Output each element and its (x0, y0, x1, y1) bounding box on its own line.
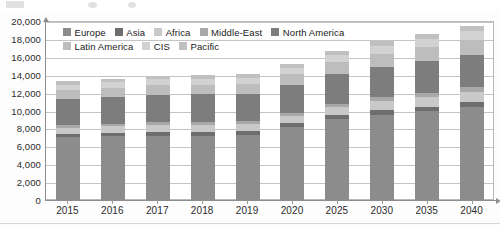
y-axis-labels: 20,00018,00016,00014,00012,00010,0008,00… (0, 0, 41, 227)
bar-segment (460, 55, 484, 87)
bar-segment (236, 94, 260, 121)
legend-item-pacific[interactable]: Pacific (179, 40, 219, 53)
bar-segment (56, 90, 80, 99)
y-axis-tick-label: 16,000 (0, 51, 41, 62)
bar-segment (56, 137, 80, 200)
page-rule (0, 223, 500, 224)
stacked-bar[interactable] (236, 74, 260, 200)
bar-segment (191, 94, 215, 121)
bar-segment (325, 62, 349, 74)
bar-segment (56, 99, 80, 125)
x-axis-tick-label: 2020 (270, 205, 315, 223)
scan-artifact-strip (0, 0, 500, 11)
legend-label: Asia (126, 26, 145, 39)
legend-row: EuropeAsiaAfricaMiddle-EastNorth America (63, 25, 443, 39)
x-axis-tick (45, 200, 90, 204)
legend-label: Africa (166, 26, 191, 39)
legend-swatch-icon (115, 28, 123, 36)
x-axis-tick (225, 200, 270, 204)
legend-label: Latin America (75, 40, 134, 53)
stacked-bar[interactable] (191, 75, 215, 200)
x-axis-tick (180, 200, 225, 204)
x-axis-tick (449, 200, 494, 204)
y-axis-tick-label: 20,000 (0, 16, 41, 27)
bar-segment (236, 124, 260, 131)
legend-item-europe[interactable]: Europe (63, 26, 106, 39)
chart-legend: EuropeAsiaAfricaMiddle-EastNorth America… (63, 25, 443, 53)
stacked-bar[interactable] (101, 79, 125, 200)
x-axis-tick (270, 200, 315, 204)
y-axis-tick-label: 2,000 (0, 177, 41, 188)
legend-label: Pacific (191, 40, 220, 53)
bar-segment (191, 136, 215, 200)
y-axis-tick-label: 14,000 (0, 69, 41, 80)
bar-segment (370, 101, 394, 110)
bar-segment (146, 136, 170, 200)
x-axis-tick (135, 200, 180, 204)
legend-swatch-icon (179, 42, 187, 50)
x-axis-tick (90, 200, 135, 204)
x-axis-tick-label: 2025 (314, 205, 359, 223)
x-axis-tick-label: 2018 (180, 205, 225, 223)
legend-item-africa[interactable]: Africa (154, 26, 190, 39)
stacked-bar[interactable] (146, 76, 170, 200)
x-axis-tick-label: 2030 (359, 205, 404, 223)
stacked-bar[interactable] (370, 41, 394, 200)
bar-segment (236, 84, 260, 94)
bar-segment (146, 85, 170, 94)
bar-segment (146, 95, 170, 123)
bar-segment (460, 92, 484, 102)
y-axis-tick-label: 6,000 (0, 141, 41, 152)
bar-segment (280, 74, 304, 84)
bar-segment (146, 125, 170, 132)
stacked-bar[interactable] (415, 34, 439, 200)
bar-slot (449, 21, 494, 200)
legend-label: North America (283, 26, 345, 39)
bar-segment (236, 135, 260, 200)
x-axis-tick-label: 2035 (404, 205, 449, 223)
x-axis-ticks (45, 200, 494, 204)
bar-segment (325, 55, 349, 62)
y-axis-tick-label: 8,000 (0, 123, 41, 134)
y-axis-tick-label: 18,000 (0, 33, 41, 44)
bar-segment (325, 74, 349, 104)
bar-segment (280, 127, 304, 200)
legend-item-cis[interactable]: CIS (142, 40, 170, 53)
legend-label: Europe (75, 26, 106, 39)
bar-segment (415, 61, 439, 93)
bar-segment (460, 107, 484, 200)
bar-segment (101, 136, 125, 200)
bar-segment (370, 54, 394, 67)
stacked-bar[interactable] (325, 51, 349, 200)
legend-swatch-icon (154, 28, 162, 36)
legend-item-north-america[interactable]: North America (271, 26, 344, 39)
bar-segment (370, 115, 394, 200)
bar-segment (280, 85, 304, 113)
legend-swatch-icon (63, 28, 71, 36)
legend-item-latin-america[interactable]: Latin America (63, 40, 133, 53)
stacked-bar[interactable] (56, 81, 80, 200)
bar-segment (325, 119, 349, 200)
y-axis-tick-label: 0 (0, 195, 41, 206)
y-axis-tick-label: 4,000 (0, 159, 41, 170)
bar-segment (101, 97, 125, 123)
stacked-bar[interactable] (280, 64, 304, 200)
bar-segment (415, 111, 439, 200)
x-axis-tick-label: 2040 (449, 205, 494, 223)
y-axis-tick-label: 12,000 (0, 87, 41, 98)
bar-segment (191, 85, 215, 95)
legend-swatch-icon (142, 42, 150, 50)
bar-segment (191, 125, 215, 132)
bar-segment (370, 67, 394, 98)
bar-segment (280, 116, 304, 123)
legend-item-asia[interactable]: Asia (115, 26, 145, 39)
x-axis-tick-label: 2017 (135, 205, 180, 223)
legend-swatch-icon (200, 28, 208, 36)
x-axis-tick-label: 2015 (45, 205, 90, 223)
chart-screenshot: 20,00018,00016,00014,00012,00010,0008,00… (0, 0, 500, 227)
x-axis-labels: 2015201620172018201920202025203020352040 (45, 205, 494, 223)
legend-label: CIS (154, 40, 170, 53)
stacked-bar[interactable] (460, 26, 484, 200)
legend-item-middle-east[interactable]: Middle-East (200, 26, 263, 39)
x-axis-tick-label: 2019 (225, 205, 270, 223)
